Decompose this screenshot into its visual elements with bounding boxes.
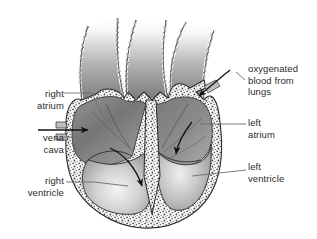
label-oxygenated-blood-from-lungs: oxygenated blood from lungs	[248, 63, 316, 98]
leader-oxygenated	[236, 72, 245, 80]
label-left-atrium: left atrium	[248, 117, 312, 140]
label-left-ventricle: left ventricle	[248, 161, 312, 184]
heart-body-group	[56, 80, 222, 228]
label-vena-cava: vena cava	[6, 132, 64, 155]
heart-diagram-figure: right atrium vena cava right ventricle o…	[0, 0, 317, 239]
label-right-atrium: right atrium	[6, 88, 64, 111]
pulmonary-vein-stub	[204, 80, 220, 93]
label-right-ventricle: right ventricle	[2, 175, 64, 198]
